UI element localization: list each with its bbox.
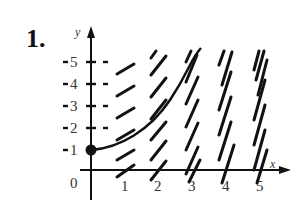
x-tick-1: 1 <box>121 178 129 194</box>
y-tick-3: 3 <box>70 98 78 114</box>
x-tick-2: 2 <box>154 178 162 194</box>
slope-field-diagram: y x 0 5 4 3 2 1 1 2 3 4 5 <box>0 0 297 205</box>
y-tick-2: 2 <box>70 120 78 136</box>
solution-curve <box>91 48 201 150</box>
x-axis-label: x <box>269 157 276 171</box>
slope-segments <box>117 51 267 183</box>
origin-label: 0 <box>70 175 78 191</box>
initial-point-marker <box>86 145 97 156</box>
y-axis-arrow-icon <box>87 26 95 38</box>
y-tick-1: 1 <box>70 142 78 158</box>
y-axis-label: y <box>74 25 81 39</box>
x-axis-arrow-icon <box>279 166 291 174</box>
y-tick-4: 4 <box>70 76 78 92</box>
y-tick-5: 5 <box>70 54 78 70</box>
